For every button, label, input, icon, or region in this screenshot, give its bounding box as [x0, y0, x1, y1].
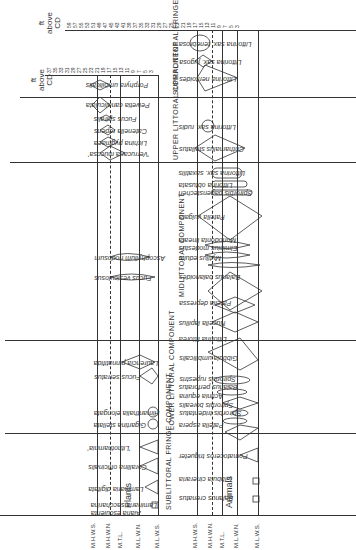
- animal-label: Balanus crenatus: [179, 495, 233, 502]
- tide-label: M.L.W.N.: [233, 523, 239, 548]
- plant-label: Pelvetia canaliculata: [86, 102, 150, 109]
- animals-axis-title: ft above CD: [38, 8, 62, 38]
- plant-label: Gigartina stellata: [94, 422, 147, 429]
- animal-label: Littorina obtusata: [179, 182, 233, 189]
- animal-label: Littorina littorea: [179, 336, 227, 343]
- animal-label: Balanus balanoides: [179, 274, 240, 281]
- animal-label: Patella aspera: [179, 422, 224, 429]
- animal-label: Gibbula cineraria: [179, 476, 232, 483]
- animal-label: Spirorbis pagenstecheri: [179, 190, 253, 197]
- animal-label: Nucella lapillus: [179, 320, 226, 327]
- animal-label: Littorina sax. rudis: [179, 124, 236, 131]
- animal-label: Chthamalus stellatus: [179, 146, 244, 153]
- plant-label: Fucus vesiculosus: [94, 275, 151, 282]
- plant-label: Alaria esculenta: [91, 510, 141, 517]
- tide-label: M.H.W.N.: [207, 522, 213, 548]
- tide-label: M.H.W.N.: [105, 522, 111, 548]
- tick: 3: [234, 25, 240, 28]
- animal-label: Littorina sax. jugosa: [179, 59, 241, 66]
- plant-label: Himanthalia elongata: [94, 410, 160, 417]
- plant-label: Ascophyllum nodosum: [94, 255, 164, 262]
- animal-label: Gibbula umbilicalis: [179, 355, 237, 362]
- animal-label: Littorina sax. saxatilis: [179, 170, 246, 177]
- plant-label: Catenella repens: [94, 128, 147, 135]
- tide-label: M.L.W.S.: [154, 524, 160, 548]
- animal-label: Balanus perforatus: [179, 384, 238, 391]
- animal-label: Patella vulgata: [179, 214, 225, 221]
- plant-label: Lichina pygmaea: [94, 140, 147, 147]
- tide-label: M.L.W.N.: [135, 523, 141, 548]
- plant-label: Fucus spiralis: [94, 116, 137, 123]
- axis-title-cd: CD: [54, 8, 62, 38]
- plant-label: Laminaria digitata: [88, 486, 143, 493]
- plant-label: Laminaria saccharina: [91, 502, 158, 509]
- plant-label: Laurencia pinnatifida: [94, 360, 159, 367]
- animal-label: Elminius modestus: [179, 245, 238, 252]
- animal-label: Spirorbis tridentatus: [179, 410, 241, 417]
- animal-label: Littorina sax. tenebrosa: [179, 41, 252, 48]
- animal-label: Spirorbis rupestris: [179, 376, 235, 383]
- animal-label: Patella depressa: [179, 300, 231, 307]
- tide-label: M.T.L.: [219, 532, 225, 548]
- plant-label: Corallina officinalis: [88, 464, 146, 471]
- plant-label: Porphyra umbilicalis: [86, 82, 149, 89]
- plant-label: Fucus serratus: [94, 374, 140, 381]
- tide-label: M.L.W.S.: [254, 524, 260, 548]
- animal-label: Mytilus edulis: [179, 255, 221, 262]
- tide-label: M.T.L.: [117, 532, 123, 548]
- component-sublittoral: SUBLITTORAL FRINGE COMPONENT: [165, 435, 173, 510]
- animal-label: Spirorbis borealis: [179, 402, 233, 409]
- tide-label: M.H.W.S.: [90, 523, 96, 548]
- animal-label: Monodonta lineata: [179, 237, 237, 244]
- plant-label: 'Verrucaria mucosa': [88, 151, 149, 158]
- animal-label: Pomatoceros triqueter: [179, 453, 248, 460]
- tide-label: M.H.W.S.: [192, 523, 198, 548]
- tick: 3: [148, 70, 154, 73]
- animal-label: Actinia equina: [179, 393, 223, 400]
- animal-label: Littorina neritoides: [179, 76, 236, 83]
- plant-label: 'Lithothamnia': [88, 445, 131, 452]
